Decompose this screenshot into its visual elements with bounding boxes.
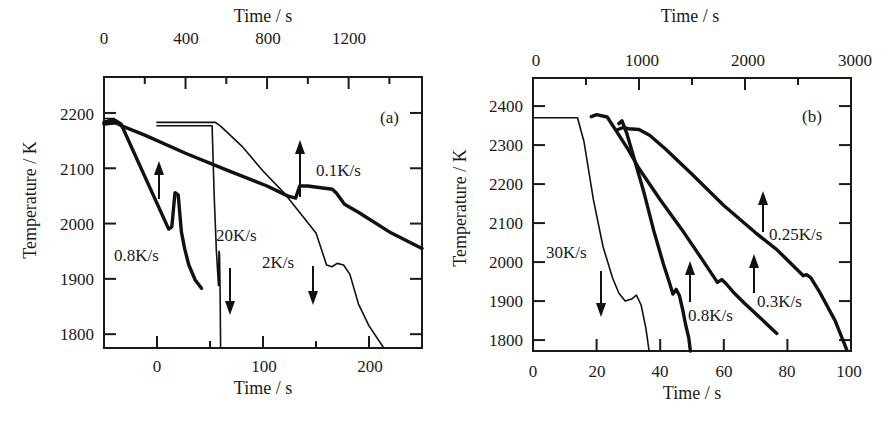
top-x-tick-b-0: 0 [532, 51, 541, 70]
rate-label-0.8-b: 0.8K/s [688, 306, 733, 325]
top-x-tick-a-1: 400 [173, 29, 199, 48]
curve-0.3ks [591, 115, 777, 334]
y-tick-b-2400: 2400 [489, 97, 523, 116]
arrow-up-icon [758, 191, 768, 232]
arrow-up-icon [685, 261, 695, 302]
plot-frame-a [104, 77, 422, 348]
arrow-up-icon [154, 161, 164, 199]
y-tick-b-2200: 2200 [489, 175, 523, 194]
curves-a [104, 119, 422, 349]
y-tick-a-2200: 2200 [60, 105, 94, 124]
top-x-tick-b-2: 2000 [731, 51, 765, 70]
y-tick-a-1800: 1800 [60, 325, 94, 344]
rate-label-0.8-a: 0.8K/s [114, 246, 159, 265]
bottom-x-tick-b-5: 100 [836, 362, 862, 381]
top-x-tick-a-0: 0 [100, 29, 109, 48]
y-tick-b-2300: 2300 [489, 136, 523, 155]
curve-0.8ks [619, 121, 691, 351]
y-tick-a-1900: 1900 [60, 270, 94, 289]
curve-20ks [157, 126, 221, 348]
bottom-x-tick-b-3: 60 [716, 362, 733, 381]
y-axis-title-b: Temperature / K [450, 149, 470, 267]
bottom-x-tick-a-0: 0 [153, 357, 162, 376]
bottom-x-tick-b-4: 80 [779, 362, 796, 381]
arrow-down-icon [225, 268, 235, 315]
top-x-tick-b-1: 1000 [625, 51, 659, 70]
rate-label-30: 30K/s [546, 243, 587, 262]
top-x-tick-b-3: 3000 [838, 51, 872, 70]
y-axis-title-a: Temperature / K [20, 141, 40, 259]
arrow-down-icon [596, 271, 606, 317]
panel-label-b: (b) [802, 107, 822, 126]
curve-0.1ks [104, 123, 422, 248]
top-x-tick-a-3: 1200 [332, 29, 366, 48]
y-tick-a-2000: 2000 [60, 215, 94, 234]
bottom-x-axis-title-b: Time / s [663, 383, 721, 403]
axis-ticks-a [104, 77, 422, 348]
chart-panel-b: Time / s 0 1000 2000 3000 2400 2300 2200… [450, 6, 872, 403]
arrow-down-icon [308, 266, 318, 305]
bottom-x-tick-a-1: 100 [251, 357, 277, 376]
top-x-tick-a-2: 800 [255, 29, 281, 48]
figure: Time / s 0 400 800 1200 2200 2100 2000 1… [0, 0, 889, 422]
top-x-axis-title-a: Time / s [234, 6, 292, 26]
rate-label-20: 20K/s [216, 226, 257, 245]
bottom-x-tick-b-1: 20 [589, 362, 606, 381]
arrow-up-icon [295, 140, 305, 197]
rate-label-2: 2K/s [262, 253, 294, 272]
panel-label-a: (a) [380, 108, 399, 127]
y-tick-b-1800: 1800 [489, 331, 523, 350]
rate-label-0.1: 0.1K/s [316, 161, 361, 180]
bottom-x-axis-title-a: Time / s [234, 378, 292, 398]
chart-panel-a: Time / s 0 400 800 1200 2200 2100 2000 1… [20, 6, 422, 398]
top-x-axis-title-b: Time / s [661, 6, 719, 26]
y-tick-a-2100: 2100 [60, 160, 94, 179]
bottom-x-tick-b-2: 40 [652, 362, 669, 381]
rate-label-0.25: 0.25K/s [769, 225, 822, 244]
bottom-x-tick-b-0: 0 [529, 362, 538, 381]
bottom-x-tick-a-2: 200 [357, 357, 383, 376]
y-tick-b-2000: 2000 [489, 253, 523, 272]
y-tick-b-1900: 1900 [489, 292, 523, 311]
rate-label-0.3: 0.3K/s [757, 292, 802, 311]
arrow-up-icon [749, 254, 759, 293]
y-tick-b-2100: 2100 [489, 214, 523, 233]
